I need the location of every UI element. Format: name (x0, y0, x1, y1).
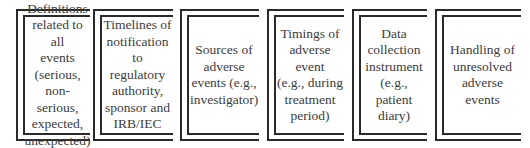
inner-frame: Handling of unresolved adverse events (442, 15, 521, 135)
box-label: Handling of unresolved adverse events (449, 42, 516, 108)
box-label: Data collection instrument (e.g., patien… (361, 26, 427, 125)
box-definitions: Definitions related to all events (serio… (16, 9, 90, 141)
inner-frame: Timelines of notification to regulatory … (100, 15, 173, 135)
box-label: Timings of adverse event (e.g., during t… (276, 26, 344, 125)
box-timings-of-adverse-event: Timings of adverse event (e.g., during t… (267, 9, 344, 141)
inner-frame: Data collection instrument (e.g., patien… (359, 15, 427, 135)
box-label: Sources of adverse events (e.g., investi… (189, 42, 259, 108)
box-handling-unresolved-events: Handling of unresolved adverse events (435, 9, 521, 141)
box-data-collection-instrument: Data collection instrument (e.g., patien… (352, 9, 427, 141)
box-label: Definitions related to all events (serio… (24, 1, 92, 148)
box-label: Timelines of notification to regulatory … (102, 17, 173, 133)
inner-frame: Sources of adverse events (e.g., investi… (187, 15, 259, 135)
box-timelines-of-notification: Timelines of notification to regulatory … (93, 9, 173, 141)
box-sources-of-adverse-events: Sources of adverse events (e.g., investi… (180, 9, 259, 141)
inner-frame: Timings of adverse event (e.g., during t… (274, 15, 344, 135)
inner-frame: Definitions related to all events (serio… (23, 15, 90, 135)
